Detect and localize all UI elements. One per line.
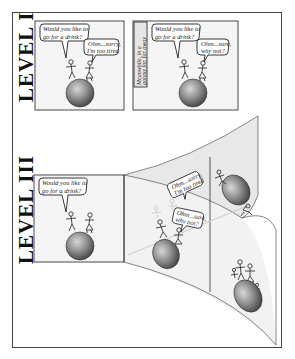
caption-line2: galaxy far, far away — [141, 37, 147, 85]
bubble-a-line2: go for a drink? — [155, 33, 195, 40]
level1-panel1: Would you like to go for a drink? Ohm...… — [35, 21, 124, 110]
bubble-b-line1: Ohm...sorry, — [88, 40, 121, 47]
bubble-b-line1: Ohm...sure, — [201, 40, 231, 47]
bubble-a-line1: Would you like to — [42, 179, 88, 186]
bubble-b-line2: I'm too tired — [86, 47, 120, 54]
globe-icon — [179, 79, 207, 107]
bubble-a-line2: go for a drink? — [42, 187, 82, 194]
globe-icon — [66, 232, 94, 260]
bubble-a-line2: go for a drink? — [43, 33, 83, 40]
level3-panel1: Would you like to go for a drink? — [34, 175, 124, 262]
bubble-a-line1: Would you like to — [155, 25, 201, 32]
comic-illustration: Would you like to go for a drink? Ohm...… — [0, 0, 295, 359]
globe-icon — [66, 79, 94, 107]
level1-panel2: Meanwhile, in a galaxy far, far away Wou… — [133, 21, 238, 110]
bubble-b-line2: why not? — [201, 47, 225, 54]
caption-box: Meanwhile, in a galaxy far, far away — [134, 22, 147, 87]
bubble-a-line1: Would you like to — [43, 25, 89, 32]
